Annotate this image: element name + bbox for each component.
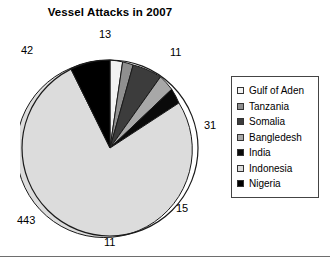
legend-item-nigeria: Nigeria [237, 176, 318, 192]
pie-plot-area: 13 11 31 15 11 443 42 [20, 56, 202, 240]
legend-swatch-icon-gulf-of-aden [237, 87, 244, 94]
pie-slices [20, 60, 192, 238]
data-label-somalia: 31 [204, 119, 216, 131]
legend-label-tanzania: Tanzania [249, 101, 289, 112]
chart-title: Vessel Attacks in 2007 [0, 6, 220, 18]
legend-item-gulf-of-aden: Gulf of Aden [237, 83, 318, 99]
data-label-tanzania: 11 [170, 46, 181, 58]
legend-swatch-icon-indonesia [237, 165, 244, 172]
legend-swatch-icon-somalia [237, 118, 244, 125]
pie-chart-figure: Vessel Attacks in 2007 13 [0, 0, 330, 266]
data-label-nigeria: 42 [21, 44, 33, 56]
data-label-bangladesh: 15 [176, 202, 188, 214]
legend-item-bangladesh: Bangledesh [237, 130, 318, 146]
data-label-gulf-of-aden: 13 [99, 28, 111, 40]
pie-svg [20, 56, 202, 240]
legend: Gulf of Aden Tanzania Somalia Bangledesh… [231, 76, 319, 198]
data-label-india: 11 [104, 236, 115, 248]
legend-label-nigeria: Nigeria [249, 178, 281, 189]
legend-label-somalia: Somalia [249, 116, 285, 127]
legend-item-indonesia: Indonesia [237, 161, 318, 177]
legend-swatch-icon-tanzania [237, 103, 244, 110]
legend-label-indonesia: Indonesia [249, 163, 292, 174]
legend-swatch-icon-bangladesh [237, 134, 244, 141]
legend-label-india: India [249, 147, 271, 158]
footer-divider [0, 256, 330, 257]
legend-swatch-icon-nigeria [237, 180, 244, 187]
legend-item-somalia: Somalia [237, 114, 318, 130]
legend-item-india: India [237, 145, 318, 161]
legend-label-bangladesh: Bangledesh [249, 132, 302, 143]
data-label-indonesia: 443 [17, 214, 35, 226]
legend-label-gulf-of-aden: Gulf of Aden [249, 85, 304, 96]
legend-item-tanzania: Tanzania [237, 99, 318, 115]
legend-swatch-icon-india [237, 149, 244, 156]
